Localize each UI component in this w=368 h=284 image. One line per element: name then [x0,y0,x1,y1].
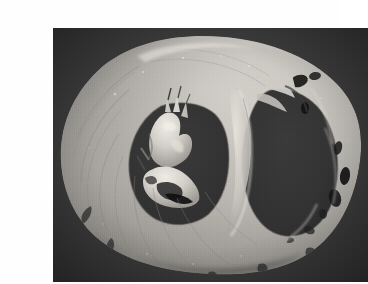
specimen-photograph: Grayscale gross pathology photograph of … [53,28,368,282]
photograph-canvas [53,28,368,282]
